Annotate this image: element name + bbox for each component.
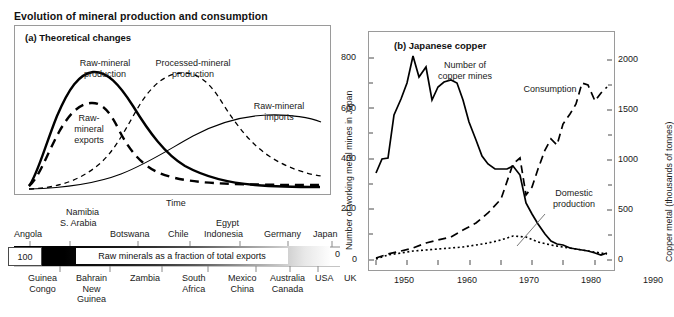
scale-label-uk: UK	[344, 273, 357, 284]
scale-label-south: South	[182, 273, 206, 283]
label-copper-mines-line2: copper mines	[438, 71, 492, 81]
panel-b-right-tick-1000: 1000	[618, 154, 638, 164]
scale-label-south-africa: South Africa	[182, 273, 206, 294]
scale-label-namibia: Namibia	[66, 207, 99, 218]
label-raw-mineral-imports-line2: imports	[264, 112, 294, 122]
scale-label-canada: Canada	[272, 284, 304, 294]
scale-label-egypt: Egypt	[216, 218, 239, 229]
scale-label-africa: Africa	[182, 284, 205, 294]
scale-label-guinea: Guinea	[28, 273, 57, 283]
scale-label-s-arabia: S. Arabia	[60, 218, 97, 229]
label-raw-mineral-exports-line1: Raw-	[78, 113, 99, 123]
scale-label-usa: USA	[315, 273, 334, 284]
scale-label-zambia: Zambia	[130, 273, 160, 284]
scale-label-bahrain: Bahrain	[76, 273, 107, 283]
scale-label-mexico: Mexico	[228, 273, 257, 283]
label-domestic-line1: Domestic	[555, 188, 593, 198]
scale-label-angola: Angola	[14, 229, 42, 240]
label-domestic-production: Domestic production	[538, 188, 610, 210]
panel-b-right-tick-500: 500	[618, 204, 633, 214]
scale-label-china: China	[231, 284, 255, 294]
panel-a-label: (a) Theoretical changes	[25, 32, 131, 43]
scale-caption: Raw minerals as a fraction of total expo…	[76, 248, 288, 264]
scale-left-value-box: 100	[8, 247, 42, 266]
label-processed-mineral-production: Processed-mineral production	[138, 58, 248, 80]
panel-b-x-tick-1970: 1970	[519, 275, 539, 285]
scale-label-mexico-china: Mexico China	[228, 273, 257, 294]
scale-label-australia-canada: Australia Canada	[270, 273, 305, 294]
panel-b-right-tick-0: 0	[618, 254, 623, 264]
scale-label-congo: Congo	[29, 284, 56, 294]
export-fraction-scale: 100 Raw minerals as a fraction of total …	[14, 246, 330, 266]
panel-b-x-tick-1960: 1960	[457, 275, 477, 285]
label-raw-mineral-imports: Raw-mineral imports	[238, 101, 320, 123]
label-processed-mineral-production-line2: production	[172, 69, 214, 79]
panel-b-left-tick-800: 800	[341, 52, 356, 62]
scale-label-guinea2: Guinea	[77, 294, 106, 304]
scale-tick-row-bottom	[14, 266, 344, 273]
label-raw-mineral-exports-line3: exports	[74, 135, 104, 145]
label-raw-mineral-production-line2: production	[84, 69, 126, 79]
panel-b-right-axis-title: Copper metal (thousands of tonnes)	[664, 122, 674, 262]
scale-label-germany: Germany	[264, 229, 301, 240]
panel-b-left-axis-title: Number of working metal mines in Japan	[344, 91, 354, 250]
label-number-of-copper-mines: Number of copper mines	[422, 60, 508, 82]
panel-b-right-tick-2000: 2000	[618, 54, 638, 64]
panel-a-xlabel: Time	[166, 198, 186, 208]
label-copper-mines-line1: Number of	[444, 60, 486, 70]
scale-label-chile: Chile	[168, 229, 189, 240]
panel-b-left-tick-0: 0	[352, 254, 357, 264]
label-domestic-line2: production	[553, 199, 595, 209]
label-processed-mineral-production-line1: Processed-mineral	[155, 58, 230, 68]
panel-b-label: (b) Japanese copper	[394, 40, 486, 51]
scale-left-value: 100	[17, 252, 32, 262]
figure-title: Evolution of mineral production and cons…	[14, 10, 268, 22]
panel-b-x-tick-1950: 1950	[394, 275, 414, 285]
scale-label-botswana: Botswana	[110, 229, 150, 240]
domestic-production-leader-line	[517, 214, 545, 246]
label-raw-mineral-exports: Raw- mineral exports	[62, 113, 116, 146]
label-raw-mineral-production-line1: Raw-mineral	[80, 58, 131, 68]
scale-label-japan: Japan	[313, 229, 338, 240]
scale-label-guinea-congo: Guinea Congo	[28, 273, 57, 294]
scale-label-bahrain-new-guinea: Bahrain New Guinea	[76, 273, 107, 305]
panel-b-x-tick-1980: 1980	[581, 275, 601, 285]
panel-b-x-tick-1990: 1990	[643, 275, 663, 285]
label-raw-mineral-exports-line2: mineral	[74, 124, 104, 134]
label-consumption: Consumption	[509, 84, 591, 95]
scale-right-value: 0	[335, 249, 340, 259]
scale-label-australia: Australia	[270, 273, 305, 283]
curve-consumption	[376, 83, 607, 258]
scale-label-indonesia: Indonesia	[204, 229, 243, 240]
panel-b-right-tick-1500: 1500	[618, 104, 638, 114]
label-raw-mineral-imports-line1: Raw-mineral	[254, 101, 305, 111]
scale-label-new: New	[83, 284, 101, 294]
curve-domestic-production	[376, 236, 607, 259]
